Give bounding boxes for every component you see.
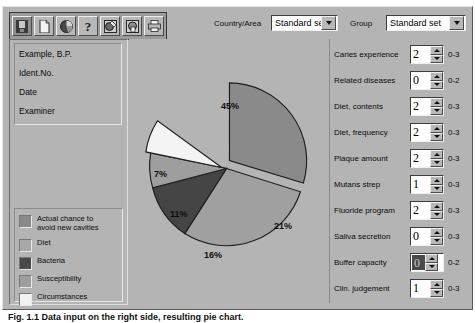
- factor-spinner-plaque-amount[interactable]: 2: [410, 149, 444, 168]
- factor-row-buffer-capacity: Buffer capacity 0 0-2: [330, 253, 469, 274]
- factor-row-plaque-amount: Plaque amount 2 0-3: [330, 149, 469, 170]
- spinner-up-icon[interactable]: [430, 124, 443, 133]
- factor-row-related-diseases: Related diseases 0 0-2: [330, 71, 469, 92]
- factor-spinner-mutans-strep[interactable]: 1: [410, 175, 444, 194]
- spinner-up-icon[interactable]: [430, 72, 443, 81]
- spinner-arrows[interactable]: [425, 254, 438, 271]
- pie-chart-icon[interactable]: [56, 16, 76, 36]
- pie-label-7: 7%: [154, 169, 167, 179]
- legend-item-circumstances: Circumstances: [19, 292, 87, 306]
- legend-swatch-circumstances: [19, 293, 32, 306]
- patient-name: Example, B.P.: [19, 49, 72, 59]
- factor-range-saliva-secretion: 0-3: [448, 232, 460, 241]
- spinner-arrows[interactable]: [430, 124, 443, 141]
- legend-label-diet: Diet: [37, 238, 51, 247]
- spinner-arrows[interactable]: [430, 280, 443, 297]
- spinner-down-icon[interactable]: [430, 237, 443, 246]
- screenshot-root: ? Country/Area Standard set Group Standa…: [0, 0, 475, 323]
- chart-legend: Actual chance to avoid new cavities Diet…: [14, 208, 123, 302]
- spinner-down-icon[interactable]: [430, 55, 443, 64]
- factor-spinner-related-diseases[interactable]: 0: [410, 71, 444, 90]
- group-select[interactable]: Standard set: [386, 15, 466, 31]
- factor-value-fluoride-program[interactable]: 2: [411, 202, 430, 219]
- print-icon[interactable]: [144, 16, 164, 36]
- spinner-arrows[interactable]: [430, 176, 443, 193]
- risk-factors-panel: Caries experience 2 0-3 Related diseases…: [329, 39, 469, 303]
- legend-swatch-chance: [19, 215, 32, 228]
- factor-value-diet-frequency[interactable]: 2: [411, 124, 430, 141]
- factor-value-clin-judgement[interactable]: 1: [411, 280, 430, 297]
- spinner-up-icon[interactable]: [430, 98, 443, 107]
- factor-row-clin-judgement: Clin. judgement 1 0-3: [330, 279, 469, 300]
- spinner-down-icon[interactable]: [430, 107, 443, 116]
- factor-value-mutans-strep[interactable]: 1: [411, 176, 430, 193]
- factor-value-plaque-amount[interactable]: 2: [411, 150, 430, 167]
- spinner-down-icon[interactable]: [430, 159, 443, 168]
- new-document-icon[interactable]: [34, 16, 54, 36]
- help-glyph: ?: [85, 20, 92, 33]
- spinner-arrows[interactable]: [430, 228, 443, 245]
- factor-row-fluoride-program: Fluoride program 2 0-3: [330, 201, 469, 222]
- legend-item-bacteria: Bacteria: [19, 256, 65, 270]
- spinner-down-icon[interactable]: [430, 81, 443, 90]
- legend-label-chance: Actual chance to avoid new cavities: [37, 214, 99, 232]
- factor-spinner-caries-experience[interactable]: 2: [410, 45, 444, 64]
- spinner-down-icon[interactable]: [430, 185, 443, 194]
- toolbar: ?: [9, 12, 167, 40]
- spinner-down-icon[interactable]: [430, 133, 443, 142]
- factor-spinner-diet-contents[interactable]: 2: [410, 97, 444, 116]
- factor-label-caries-experience: Caries experience: [334, 50, 408, 59]
- factor-spinner-fluoride-program[interactable]: 2: [410, 201, 444, 220]
- spinner-down-icon[interactable]: [430, 211, 443, 220]
- spinner-up-icon[interactable]: [430, 228, 443, 237]
- spinner-up-icon[interactable]: [430, 280, 443, 289]
- factor-label-mutans-strep: Mutans strep: [334, 180, 408, 189]
- legend-swatch-bacteria: [19, 257, 32, 270]
- legend-swatch-susceptibility: [19, 275, 32, 288]
- save-icon[interactable]: [12, 16, 32, 36]
- help-icon[interactable]: ?: [78, 16, 98, 36]
- chevron-down-icon[interactable]: [321, 16, 336, 30]
- factor-range-related-diseases: 0-2: [448, 76, 460, 85]
- legend-label-susceptibility: Susceptibility: [37, 274, 81, 283]
- factor-range-buffer-capacity: 0-2: [448, 258, 460, 267]
- factor-row-mutans-strep: Mutans strep 1 0-3: [330, 175, 469, 196]
- spinner-up-icon[interactable]: [430, 202, 443, 211]
- patient-date: Date: [19, 87, 37, 97]
- legend-label-bacteria: Bacteria: [37, 256, 65, 265]
- spinner-up-icon[interactable]: [430, 46, 443, 55]
- factor-value-buffer-capacity[interactable]: 0: [412, 255, 425, 270]
- edit-chart-icon[interactable]: [100, 16, 120, 36]
- factor-value-related-diseases[interactable]: 0: [411, 72, 430, 89]
- factor-value-caries-experience[interactable]: 2: [411, 46, 430, 63]
- country-area-label: Country/Area: [214, 19, 261, 28]
- factor-spinner-saliva-secretion[interactable]: 0: [410, 227, 444, 246]
- chevron-down-icon[interactable]: [449, 16, 464, 30]
- factor-value-diet-contents[interactable]: 2: [411, 98, 430, 115]
- factor-spinner-buffer-capacity[interactable]: 0: [410, 253, 444, 272]
- spinner-down-icon[interactable]: [425, 263, 438, 272]
- spinner-up-icon[interactable]: [425, 254, 438, 263]
- factor-range-fluoride-program: 0-3: [448, 206, 460, 215]
- spinner-down-icon[interactable]: [430, 289, 443, 298]
- spinner-up-icon[interactable]: [430, 150, 443, 159]
- group-label: Group: [350, 19, 372, 28]
- settings-chart-icon[interactable]: [122, 16, 142, 36]
- country-area-select[interactable]: Standard set: [271, 15, 338, 31]
- factor-row-caries-experience: Caries experience 2 0-3: [330, 45, 469, 66]
- spinner-arrows[interactable]: [430, 98, 443, 115]
- factor-value-saliva-secretion[interactable]: 0: [411, 228, 430, 245]
- group-value: Standard set: [387, 18, 449, 28]
- patient-examiner: Examiner: [19, 106, 55, 116]
- spinner-arrows[interactable]: [430, 150, 443, 167]
- figure-caption: Fig. 1.1 Data input on the right side, r…: [8, 312, 244, 322]
- factor-row-diet-contents: Diet, contents 2 0-3: [330, 97, 469, 118]
- spinner-up-icon[interactable]: [430, 176, 443, 185]
- factor-spinner-diet-frequency[interactable]: 2: [410, 123, 444, 142]
- spinner-arrows[interactable]: [430, 202, 443, 219]
- factor-row-diet-frequency: Diet, frequency 2 0-3: [330, 123, 469, 144]
- factor-label-saliva-secretion: Saliva secretion: [334, 232, 408, 241]
- factor-spinner-clin-judgement[interactable]: 1: [410, 279, 444, 298]
- spinner-arrows[interactable]: [430, 46, 443, 63]
- spinner-arrows[interactable]: [430, 72, 443, 89]
